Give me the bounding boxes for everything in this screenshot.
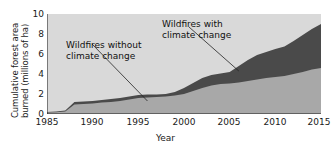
- x-tick-1985: 1985: [36, 117, 59, 127]
- y-axis-tick-labels: 10 8 6 4 2 0: [20, 0, 44, 125]
- y-tick-8: 8: [22, 30, 44, 39]
- x-tick-1990: 1990: [81, 117, 104, 127]
- y-tick-4: 4: [22, 70, 44, 79]
- annotation-with-line-2: climate change: [162, 30, 231, 41]
- annotation-without-line-2: climate change: [66, 51, 142, 62]
- x-tick-2005: 2005: [218, 117, 241, 127]
- x-axis-title: Year: [0, 133, 331, 143]
- annotation-with-climate-change: Wildfires with climate change: [162, 19, 231, 40]
- x-tick-2015: 2015: [308, 117, 331, 127]
- wildfire-cumulative-area-chart: Cumulative forest area burned (millions …: [0, 0, 331, 157]
- x-tick-1995: 1995: [127, 117, 150, 127]
- annotation-without-line-1: Wildfires without: [66, 40, 142, 51]
- y-tick-6: 6: [22, 50, 44, 59]
- x-tick-2010: 2010: [264, 117, 287, 127]
- y-axis-title-line-1: Cumulative forest area: [10, 23, 20, 118]
- y-tick-10: 10: [22, 10, 44, 19]
- y-tick-2: 2: [22, 90, 44, 99]
- annotation-without-climate-change: Wildfires without climate change: [66, 40, 142, 61]
- x-axis-tick-labels: 1985 1990 1995 2000 2005 2010 2015: [0, 117, 331, 131]
- x-tick-2000: 2000: [173, 117, 196, 127]
- annotation-with-line-1: Wildfires with: [162, 19, 231, 30]
